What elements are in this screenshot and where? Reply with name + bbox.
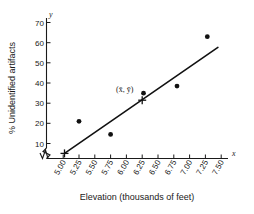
y-tick-label: 10 <box>35 140 44 149</box>
x-tick-label: 5.25 <box>68 158 84 176</box>
y-axis-symbol: y <box>48 10 53 19</box>
data-point <box>141 91 146 96</box>
x-tick-label: 5.00 <box>52 158 68 176</box>
x-tick-label: 6.50 <box>147 158 163 176</box>
chart-canvas: 70 60 50 40 30 20 10 y 5.00 5.25 <box>0 0 254 214</box>
data-point <box>108 132 113 137</box>
data-point <box>175 84 180 89</box>
scatter-plot-figure: 70 60 50 40 30 20 10 y 5.00 5.25 <box>0 0 254 214</box>
x-tick-label: 7.50 <box>210 158 226 176</box>
data-point <box>205 34 210 39</box>
centroid-label: (x̄, ȳ) <box>116 85 134 94</box>
y-tick-label: 60 <box>35 39 44 48</box>
x-tick-label: 7.25 <box>195 158 211 176</box>
y-tick-label: 50 <box>35 59 44 68</box>
x-tick-label: 5.75 <box>100 158 116 176</box>
y-tick-label: 70 <box>35 19 44 28</box>
x-tick-label: 6.25 <box>131 158 147 176</box>
y-tick-label: 40 <box>35 79 44 88</box>
y-axis-tick-labels: 70 60 50 40 30 20 10 <box>35 19 44 149</box>
y-axis-title: % Unidentified artifacts <box>7 41 17 134</box>
data-point <box>77 119 82 124</box>
y-tick-label: 30 <box>35 99 44 108</box>
x-tick-label: 5.50 <box>84 158 100 176</box>
x-tick-label: 6.75 <box>163 158 179 176</box>
x-axis-title: Elevation (thousands of feet) <box>80 192 195 202</box>
y-tick-label: 20 <box>35 119 44 128</box>
x-tick-label: 7.00 <box>179 158 195 176</box>
y-axis-ticks <box>47 23 51 144</box>
x-tick-label: 6.00 <box>116 158 132 176</box>
x-axis-tick-labels: 5.00 5.25 5.50 5.75 6.00 6.25 6.50 6.75 … <box>52 158 226 176</box>
x-axis-symbol: x <box>231 149 236 158</box>
x-axis-ticks <box>63 155 221 159</box>
data-points <box>77 34 210 137</box>
